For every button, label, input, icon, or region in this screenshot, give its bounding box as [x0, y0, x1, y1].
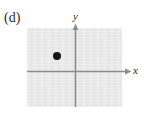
x-axis-label: x: [133, 65, 138, 76]
y-axis-arrowhead: [73, 24, 79, 31]
y-axis-label: y: [73, 11, 78, 22]
figure-panel-d: (d) y x: [0, 0, 144, 118]
axes-overlay: [0, 0, 144, 118]
data-point-marker: [53, 52, 61, 60]
x-axis-arrowhead: [125, 69, 132, 75]
